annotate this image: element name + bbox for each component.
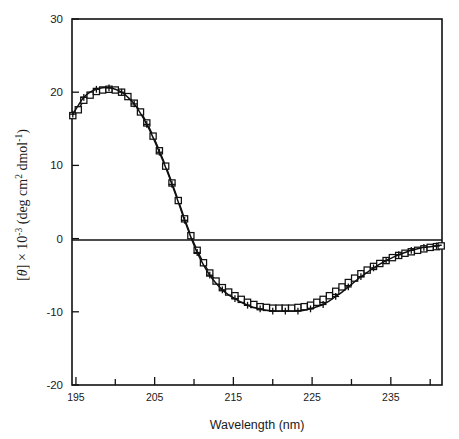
x-tick-label: 225 [303, 391, 321, 403]
chart-canvas: 3020100-10-20 195205215225235 Wavelength… [0, 0, 459, 439]
series-line [73, 89, 441, 308]
data-point-square [326, 293, 332, 299]
y-axis-title: [θ] × 10-3 (deg cm2 dmol-1) [14, 129, 31, 281]
y-tick-label: -10 [46, 306, 63, 318]
y-title-times: × 10 [15, 236, 30, 265]
x-tick-label: 215 [225, 391, 243, 403]
y-tick-label: 0 [57, 233, 63, 245]
y-title-units-mid: dmol [15, 142, 30, 174]
x-tick-label: 195 [67, 391, 85, 403]
y-tick-label: 20 [50, 86, 63, 98]
y-tick-label: 30 [50, 13, 63, 25]
series-squares [70, 86, 445, 311]
data-point-square [301, 304, 307, 310]
y-title-units-open: (deg cm [15, 179, 31, 228]
x-axis-tick-labels: 195205215225235 [67, 391, 400, 403]
x-tick-label: 205 [146, 391, 164, 403]
series-plus [69, 84, 441, 314]
plot-frame [72, 19, 442, 385]
data-series-layer [69, 84, 444, 314]
y-title-units-close: ) [15, 129, 31, 134]
series-line [73, 88, 441, 312]
y-tick-label: 10 [50, 159, 63, 171]
y-tick-label: -20 [46, 379, 63, 391]
x-tick-label: 235 [382, 391, 400, 403]
y-axis-ticks [72, 19, 79, 385]
x-axis-ticks [76, 377, 430, 385]
data-point-square [314, 299, 320, 305]
data-point-square [339, 284, 345, 290]
cd-spectrum-figure: 3020100-10-20 195205215225235 Wavelength… [0, 0, 459, 439]
data-point-square [276, 305, 282, 311]
data-point-square [289, 305, 295, 311]
x-axis-title: Wavelength (nm) [210, 418, 305, 432]
y-axis-tick-labels: 3020100-10-20 [46, 13, 63, 391]
